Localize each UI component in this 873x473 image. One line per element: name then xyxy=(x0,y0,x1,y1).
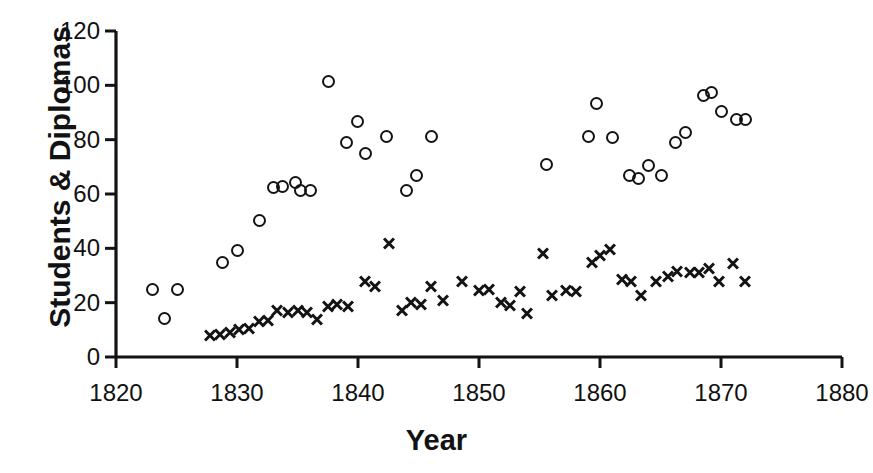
scatter-plot-figure: Students & Diplomas Year 020406080100120… xyxy=(0,0,873,473)
y-tick-label: 120 xyxy=(30,19,100,43)
x-tick-label: 1840 xyxy=(298,381,418,405)
y-tick-label: 40 xyxy=(30,236,100,260)
x-tick-label: 1830 xyxy=(177,381,297,405)
y-tick-label: 80 xyxy=(30,128,100,152)
y-tick-label: 60 xyxy=(30,182,100,206)
x-tick-label: 1870 xyxy=(661,381,781,405)
x-tick-label: 1860 xyxy=(540,381,660,405)
x-tick-label: 1820 xyxy=(56,381,176,405)
plot-area: 0204060801001201820183018401850186018701… xyxy=(0,0,873,473)
y-tick-label: 20 xyxy=(30,291,100,315)
x-tick-label: 1880 xyxy=(782,381,873,405)
y-tick-label: 100 xyxy=(30,73,100,97)
y-tick-label: 0 xyxy=(30,345,100,369)
x-tick-label: 1850 xyxy=(419,381,539,405)
